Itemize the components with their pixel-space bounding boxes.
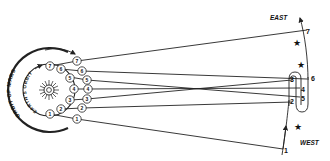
- earth-position-5: 5: [66, 74, 74, 82]
- svg-text:2: 2: [81, 105, 84, 111]
- svg-text:2: 2: [60, 106, 63, 112]
- path-number-7: 7: [306, 28, 310, 35]
- star-icon: ★: [297, 60, 305, 70]
- earth-position-6: 6: [57, 65, 65, 73]
- path-number-3: 3: [290, 76, 294, 83]
- path-number-2: 2: [290, 98, 294, 105]
- mars-position-6: 6: [78, 67, 86, 75]
- east-label: EAST: [270, 14, 288, 21]
- svg-text:5: 5: [69, 75, 72, 81]
- star-icon: ★: [294, 122, 302, 132]
- west-label: WEST: [300, 139, 320, 146]
- path-number-5: 5: [301, 95, 305, 102]
- svg-text:4: 4: [73, 86, 76, 92]
- svg-text:6: 6: [81, 68, 84, 74]
- earth-position-4: 4: [70, 85, 78, 93]
- svg-text:3: 3: [69, 97, 72, 103]
- svg-text:7: 7: [76, 58, 79, 64]
- background-stars: ★ ★ ★: [293, 38, 305, 132]
- earth-position-1: 1: [46, 110, 54, 118]
- earth-orbit-label: EARTH'S ORBIT: [22, 70, 38, 114]
- mars-orbit-label: ORBIT OF MARS: [6, 68, 22, 120]
- mars-position-7: 7: [73, 57, 81, 65]
- svg-text:1: 1: [49, 111, 52, 117]
- path-number-4: 4: [301, 86, 305, 93]
- path-number-1: 1: [284, 147, 288, 154]
- mars-position-4: 4: [84, 85, 92, 93]
- svg-text:7: 7: [49, 63, 52, 69]
- path-number-6: 6: [311, 75, 315, 82]
- retrograde-diagram: ORBIT OF MARS EARTH'S ORBIT: [0, 0, 330, 161]
- mars-position-1: 1: [73, 115, 81, 123]
- mars-position-3: 3: [83, 95, 91, 103]
- mars-position-5: 5: [83, 76, 91, 84]
- mars-position-2: 2: [78, 104, 86, 112]
- svg-text:5: 5: [86, 77, 89, 83]
- svg-text:3: 3: [86, 96, 89, 102]
- svg-text:6: 6: [60, 66, 63, 72]
- sun-icon: [39, 80, 59, 100]
- earth-position-3: 3: [66, 96, 74, 104]
- svg-text:1: 1: [76, 116, 79, 122]
- earth-position-7: 7: [46, 62, 54, 70]
- earth-position-2: 2: [57, 105, 65, 113]
- svg-text:4: 4: [87, 86, 90, 92]
- star-icon: ★: [293, 38, 301, 48]
